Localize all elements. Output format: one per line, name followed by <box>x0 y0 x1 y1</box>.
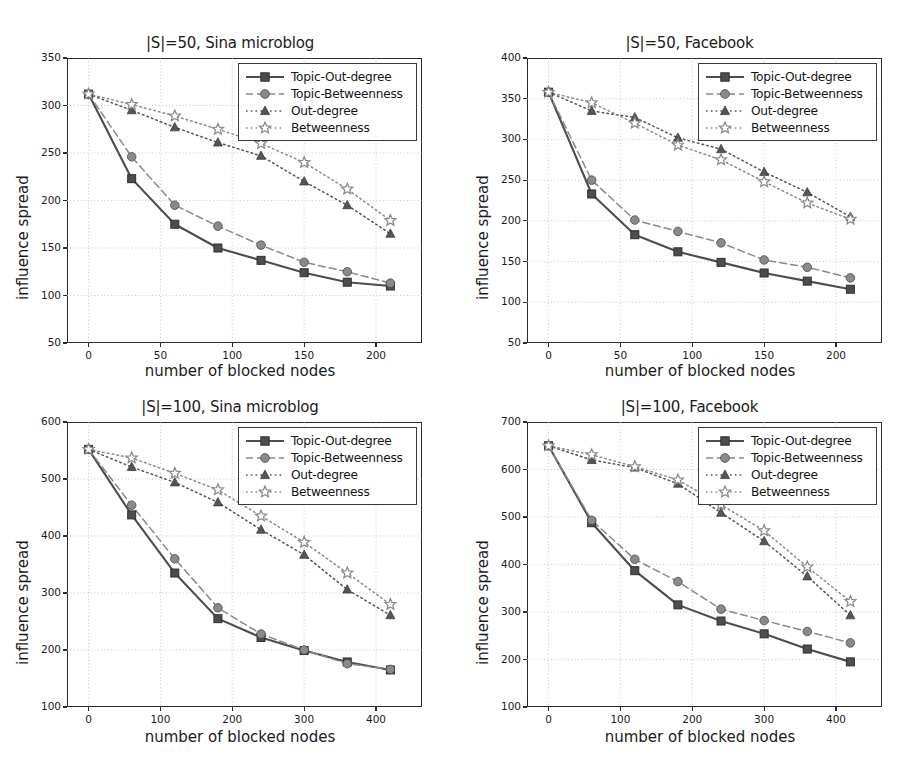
legend-marker-icon <box>244 450 286 466</box>
x-tick-label: 150 <box>284 349 324 361</box>
x-tick-label: 0 <box>529 713 569 725</box>
y-tick-label: 150 <box>485 255 521 267</box>
x-tick-label: 200 <box>212 713 252 725</box>
y-tick-label: 50 <box>25 336 61 348</box>
x-tick-mark <box>692 343 693 347</box>
chart-legend: Topic-Out-degreeTopic-BetweennessOut-deg… <box>698 63 877 141</box>
y-tick-label: 200 <box>485 653 521 665</box>
x-tick-mark <box>835 343 836 347</box>
legend-marker-icon <box>244 103 286 119</box>
y-tick-label: 700 <box>485 415 521 427</box>
y-tick-label: 150 <box>25 241 61 253</box>
y-tick-mark <box>523 302 527 303</box>
y-tick-mark <box>63 342 67 343</box>
y-tick-label: 300 <box>25 586 61 598</box>
y-tick-mark <box>523 57 527 58</box>
legend-label: Betweenness <box>751 485 830 499</box>
x-tick-label: 400 <box>816 713 856 725</box>
chart-legend: Topic-Out-degreeTopic-BetweennessOut-deg… <box>238 63 417 141</box>
y-tick-label: 300 <box>485 605 521 617</box>
legend-marker-icon <box>704 467 746 483</box>
y-tick-label: 100 <box>25 700 61 712</box>
legend-marker-icon <box>244 86 286 102</box>
legend-label: Betweenness <box>291 121 370 135</box>
x-tick-mark <box>88 343 89 347</box>
x-tick-label: 0 <box>529 349 569 361</box>
chart-panel-1: |S|=50, Sina microblog influence spread … <box>0 30 460 390</box>
legend-item[interactable]: Topic-Out-degree <box>244 68 409 85</box>
y-tick-mark <box>63 706 67 707</box>
legend-label: Out-degree <box>291 468 358 482</box>
chart-panel-2: |S|=50, Facebook influence spread number… <box>460 30 919 390</box>
legend-item[interactable]: Out-degree <box>244 102 409 119</box>
legend-item[interactable]: Topic-Betweenness <box>704 85 869 102</box>
y-tick-label: 500 <box>485 510 521 522</box>
x-tick-label: 100 <box>212 349 252 361</box>
x-tick-mark <box>160 343 161 347</box>
legend-label: Out-degree <box>751 468 818 482</box>
x-tick-mark <box>88 707 89 711</box>
legend-item[interactable]: Betweenness <box>704 119 869 136</box>
legend-item[interactable]: Topic-Out-degree <box>704 68 869 85</box>
legend-marker-icon <box>244 484 286 500</box>
y-tick-mark <box>523 139 527 140</box>
x-axis-label: number of blocked nodes <box>520 728 880 746</box>
legend-marker-icon <box>704 103 746 119</box>
y-tick-mark <box>523 469 527 470</box>
y-tick-mark <box>63 105 67 106</box>
x-tick-label: 50 <box>600 349 640 361</box>
x-tick-mark <box>160 707 161 711</box>
legend-item[interactable]: Betweenness <box>244 119 409 136</box>
legend-item[interactable]: Betweenness <box>704 483 869 500</box>
x-tick-mark <box>620 707 621 711</box>
y-tick-mark <box>63 295 67 296</box>
legend-label: Topic-Out-degree <box>751 70 852 84</box>
legend-label: Topic-Betweenness <box>751 451 863 465</box>
x-tick-label: 400 <box>356 713 396 725</box>
y-tick-mark <box>523 611 527 612</box>
y-tick-mark <box>63 152 67 153</box>
legend-label: Betweenness <box>291 485 370 499</box>
legend-item[interactable]: Topic-Betweenness <box>704 449 869 466</box>
x-tick-label: 0 <box>69 349 109 361</box>
y-tick-mark <box>523 706 527 707</box>
legend-label: Out-degree <box>291 104 358 118</box>
legend-item[interactable]: Topic-Out-degree <box>704 432 869 449</box>
y-tick-mark <box>523 180 527 181</box>
x-tick-label: 100 <box>672 349 712 361</box>
figure-canvas: |S|=50, Sina microblog influence spread … <box>0 0 919 767</box>
legend-item[interactable]: Out-degree <box>704 466 869 483</box>
x-axis-label: number of blocked nodes <box>60 362 420 380</box>
x-tick-label: 100 <box>140 713 180 725</box>
x-tick-label: 50 <box>140 349 180 361</box>
x-tick-mark <box>304 707 305 711</box>
y-tick-mark <box>63 649 67 650</box>
y-tick-label: 400 <box>485 558 521 570</box>
legend-marker-icon <box>704 450 746 466</box>
x-tick-mark <box>375 343 376 347</box>
legend-item[interactable]: Out-degree <box>704 102 869 119</box>
legend-marker-icon <box>244 120 286 136</box>
legend-label: Betweenness <box>751 121 830 135</box>
legend-marker-icon <box>704 433 746 449</box>
y-tick-label: 50 <box>485 336 521 348</box>
panel-title: |S|=100, Sina microblog <box>0 398 460 416</box>
legend-marker-icon <box>244 69 286 85</box>
legend-item[interactable]: Topic-Out-degree <box>244 432 409 449</box>
y-tick-label: 600 <box>485 463 521 475</box>
legend-item[interactable]: Topic-Betweenness <box>244 85 409 102</box>
legend-item[interactable]: Out-degree <box>244 466 409 483</box>
legend-label: Out-degree <box>751 104 818 118</box>
legend-marker-icon <box>704 69 746 85</box>
y-tick-label: 350 <box>485 92 521 104</box>
legend-item[interactable]: Betweenness <box>244 483 409 500</box>
legend-item[interactable]: Topic-Betweenness <box>244 449 409 466</box>
chart-panel-3: |S|=100, Sina microblog influence spread… <box>0 390 460 767</box>
y-tick-mark <box>523 98 527 99</box>
y-tick-label: 400 <box>25 529 61 541</box>
legend-marker-icon <box>704 484 746 500</box>
x-tick-mark <box>620 343 621 347</box>
y-tick-mark <box>523 220 527 221</box>
x-tick-mark <box>232 707 233 711</box>
x-axis-label: number of blocked nodes <box>60 728 420 746</box>
